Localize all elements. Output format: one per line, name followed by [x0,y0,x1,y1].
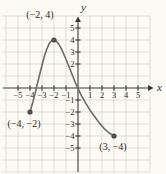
y-tick-label: 2 [70,59,74,69]
y-axis-label: y [80,1,86,13]
point-label: (−4, −2) [8,118,41,130]
y-tick-label: −4 [65,131,75,141]
y-tick-label: 5 [70,23,74,33]
x-tick-label: −3 [37,90,46,100]
y-tick-label: −3 [65,119,74,129]
x-axis-label: x [156,81,162,93]
coordinate-plane-figure: −5−4−3−2−1123455432−1−2−3−4−5xy(−2, 4)(−… [0,0,166,174]
x-tick-label: −2 [49,90,58,100]
y-tick-label: −5 [65,143,74,153]
point-dot [51,37,56,42]
point-label: (3, −4) [99,141,126,153]
x-tick-label: 3 [112,90,116,100]
y-axis-arrow [75,17,81,23]
point-dot [111,133,116,138]
x-axis-arrow [148,85,154,91]
x-tick-label: 2 [100,90,104,100]
plot-svg: −5−4−3−2−1123455432−1−2−3−4−5xy(−2, 4)(−… [0,0,166,174]
x-tick-label: 5 [136,90,140,100]
point-label: (−2, 4) [26,9,53,21]
y-tick-label: −1 [65,95,74,105]
y-tick-label: −2 [65,107,74,117]
point-dot [27,109,32,114]
x-tick-label: −5 [13,90,22,100]
x-tick-label: 4 [124,90,129,100]
x-tick-label: 1 [88,90,92,100]
y-tick-label: 3 [70,47,74,57]
